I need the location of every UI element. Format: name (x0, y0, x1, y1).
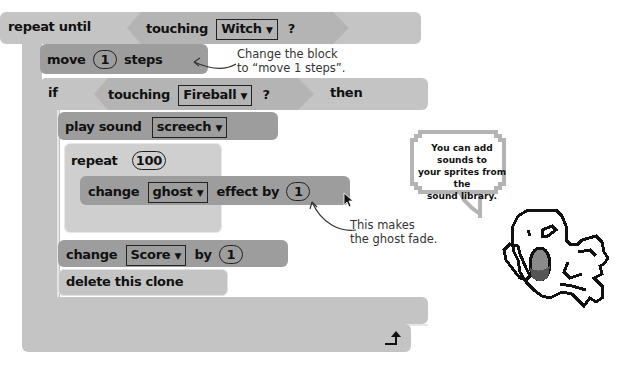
bubble-line3: sound library. (412, 190, 512, 202)
touching-label: touching (146, 21, 208, 36)
question-mark: ? (262, 87, 269, 102)
sound-dropdown-value: screech (157, 119, 211, 134)
dropdown-arrow-icon: ▼ (197, 188, 204, 198)
if-block-bottom (40, 297, 428, 324)
move-note-line2: to “move 1 steps”. (237, 61, 345, 75)
effect-dropdown[interactable]: ghost ▼ (148, 182, 209, 203)
question-mark: ? (288, 21, 295, 36)
move-annotation-arrow-icon (188, 52, 238, 74)
change-effect-row: change ghost ▼ effect by 1 (88, 182, 310, 203)
move-note-line1: Change the block (237, 47, 345, 61)
dropdown-arrow-icon: ▼ (241, 91, 248, 101)
sound-dropdown[interactable]: screech ▼ (152, 117, 227, 138)
bubble-line2: your sprites from the (412, 166, 512, 190)
dropdown-arrow-icon: ▼ (175, 251, 182, 261)
move-row: move 1 steps (47, 50, 162, 69)
score-amount-input[interactable]: 1 (219, 245, 243, 264)
repeat-until-block-bottom (22, 324, 411, 352)
touching-witch-row: touching Witch ▼ ? (146, 19, 295, 40)
repeat-row: repeat 100 (71, 151, 166, 170)
speech-bubble-text: You can add sounds to your sprites from … (412, 142, 512, 202)
ghost-sprite-icon (490, 202, 620, 312)
loop-arrow-icon (383, 331, 403, 347)
bubble-line1: You can add sounds to (412, 142, 512, 166)
then-label: then (330, 85, 362, 100)
witch-dropdown-value: Witch (221, 21, 261, 36)
if-label: if (48, 85, 58, 100)
play-sound-row: play sound screech ▼ (65, 117, 227, 138)
change-label: change (88, 184, 139, 199)
fireball-dropdown[interactable]: Fireball ▼ (178, 85, 252, 106)
play-sound-label: play sound (65, 119, 142, 134)
repeat-label: repeat (71, 153, 118, 168)
dropdown-arrow-icon: ▼ (215, 123, 222, 133)
effect-by-label: effect by (217, 184, 279, 199)
repeat-until-rail (22, 40, 42, 342)
repeat-until-label: repeat until (8, 19, 91, 34)
repeat-count-input[interactable]: 100 (132, 151, 166, 170)
move-annotation: Change the block to “move 1 steps”. (237, 47, 345, 75)
fireball-dropdown-value: Fireball (183, 87, 236, 102)
delete-clone-label: delete this clone (66, 274, 183, 289)
move-steps-input[interactable]: 1 (93, 50, 117, 69)
witch-dropdown[interactable]: Witch ▼ (216, 19, 277, 40)
move-label: move (47, 52, 86, 67)
change-label: change (66, 247, 117, 262)
by-label: by (194, 247, 211, 262)
dropdown-arrow-icon: ▼ (266, 25, 273, 35)
variable-dropdown-value: Score (131, 247, 171, 262)
variable-dropdown[interactable]: Score ▼ (126, 245, 187, 266)
change-score-row: change Score ▼ by 1 (66, 245, 243, 266)
steps-label: steps (124, 52, 162, 67)
effect-dropdown-value: ghost (153, 184, 193, 199)
touching-label: touching (108, 87, 170, 102)
touching-fireball-row: touching Fireball ▼ ? (108, 85, 270, 106)
